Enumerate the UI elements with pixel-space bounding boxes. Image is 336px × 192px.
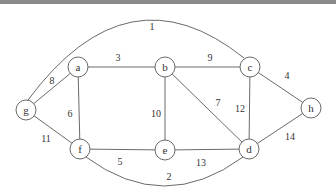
node-c: c — [240, 57, 260, 77]
node-label: a — [76, 61, 81, 73]
edge-weight-e-d: 13 — [196, 157, 206, 168]
edge-weight-c-d: 12 — [235, 103, 245, 114]
edge-weight-f-e: 5 — [118, 156, 123, 167]
node-label: g — [23, 104, 29, 116]
node-label: d — [246, 143, 252, 155]
edge-weight-b-e: 10 — [151, 108, 161, 119]
edge-weight-f-d: 2 — [167, 171, 172, 182]
node-label: e — [163, 144, 168, 156]
nodes-layer: abcgfedh — [16, 57, 321, 160]
edge-weight-a-f: 6 — [68, 108, 73, 119]
edge-weight-d-h: 14 — [285, 131, 295, 142]
weighted-graph: 1234567891011121314 abcgfedh — [0, 0, 336, 192]
node-label: f — [78, 143, 82, 155]
edge-weight-g-a: 8 — [50, 75, 55, 86]
node-g: g — [16, 100, 36, 120]
node-d: d — [239, 139, 259, 159]
edge-d-h — [249, 108, 311, 149]
edge-weight-b-d: 7 — [216, 97, 221, 108]
node-b: b — [155, 57, 175, 77]
node-label: c — [248, 61, 253, 73]
edge-weight-g-c: 1 — [150, 21, 155, 32]
edge-weight-b-c: 9 — [208, 52, 213, 63]
edge-a-f — [78, 67, 80, 149]
edge-weight-c-h: 4 — [285, 70, 290, 81]
edge-c-d — [249, 67, 250, 149]
node-label: h — [308, 102, 314, 114]
node-h: h — [301, 98, 321, 118]
edges-layer — [26, 20, 311, 186]
edge-e-d — [165, 149, 249, 150]
edge-weight-g-f: 11 — [41, 133, 51, 144]
node-f: f — [70, 139, 90, 159]
node-a: a — [68, 57, 88, 77]
edge-f-e — [80, 149, 165, 150]
edge-weight-a-b: 3 — [116, 52, 121, 63]
edge-f-d — [86, 157, 243, 186]
edge-c-h — [250, 67, 311, 108]
node-e: e — [155, 140, 175, 160]
node-label: b — [162, 61, 168, 73]
